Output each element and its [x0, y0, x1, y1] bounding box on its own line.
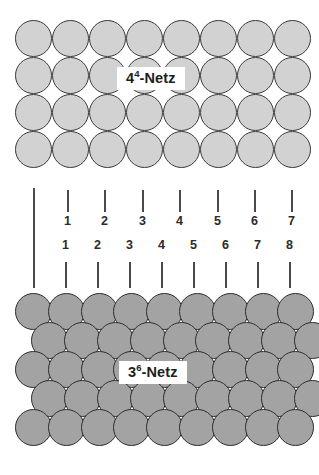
hex-lattice-sphere — [179, 409, 216, 446]
square-lattice-sphere — [126, 20, 163, 57]
square-lattice-sphere — [274, 131, 311, 168]
square-lattice-sphere — [237, 131, 274, 168]
ruler-bottom-number-5: 5 — [184, 238, 204, 252]
square-lattice-sphere — [89, 94, 126, 131]
label-hex-base: 3 — [128, 364, 136, 380]
square-lattice-sphere — [200, 94, 237, 131]
hex-lattice-sphere — [277, 409, 314, 446]
ruler-top-tick-7 — [291, 190, 293, 212]
label-hex-suffix: -Netz — [142, 364, 178, 380]
square-lattice-sphere — [15, 94, 52, 131]
square-lattice-sphere — [15, 131, 52, 168]
hex-lattice-sphere — [179, 293, 216, 330]
square-lattice-sphere — [274, 20, 311, 57]
ruler-top-number-4: 4 — [170, 214, 190, 228]
square-lattice-sphere — [163, 94, 200, 131]
ruler-bottom-tick-4 — [161, 262, 163, 288]
hex-lattice-sphere — [97, 322, 134, 359]
hex-lattice-sphere — [113, 409, 150, 446]
hex-lattice-sphere — [15, 409, 52, 446]
square-lattice-sphere — [237, 94, 274, 131]
hex-lattice-sphere — [130, 322, 167, 359]
square-lattice-sphere — [200, 131, 237, 168]
ruler-top-tick-1 — [67, 190, 69, 212]
ruler-bottom-tick-1 — [65, 262, 67, 288]
ruler-top-number-2: 2 — [95, 214, 115, 228]
ruler-top-tick-5 — [217, 190, 219, 212]
square-lattice-sphere — [126, 131, 163, 168]
ruler-bottom-tick-5 — [193, 262, 195, 288]
hex-lattice-sphere — [146, 409, 183, 446]
ruler-bottom-tick-6 — [225, 262, 227, 288]
hex-lattice-sphere — [15, 293, 52, 330]
hex-lattice-sphere — [294, 380, 319, 417]
square-lattice-sphere — [52, 57, 89, 94]
hex-lattice-sphere — [130, 380, 167, 417]
square-lattice-sphere — [274, 94, 311, 131]
lattice-comparison-figure: 1234567 12345678 44-Netz 36-Netz — [0, 0, 319, 475]
hex-lattice-sphere — [195, 322, 232, 359]
hex-lattice-sphere — [212, 351, 249, 388]
ruler-bottom-number-4: 4 — [152, 238, 172, 252]
ruler-bottom-number-8: 8 — [280, 238, 300, 252]
hex-lattice-sphere — [81, 293, 118, 330]
hex-lattice-sphere — [146, 293, 183, 330]
ruler-top-number-5: 5 — [208, 214, 228, 228]
hex-lattice-sphere — [195, 380, 232, 417]
hex-lattice-sphere — [245, 293, 282, 330]
ruler-bottom-number-3: 3 — [120, 238, 140, 252]
ruler-bottom-tick-3 — [129, 262, 131, 288]
hex-lattice-sphere — [64, 322, 101, 359]
label-square-base: 4 — [126, 70, 134, 86]
ruler-top-tick-3 — [142, 190, 144, 212]
hex-lattice-sphere — [228, 322, 265, 359]
square-lattice-sphere — [274, 57, 311, 94]
hex-lattice-sphere — [163, 380, 200, 417]
square-lattice-sphere — [89, 131, 126, 168]
ruler-top-number-3: 3 — [133, 214, 153, 228]
ruler-bottom-tick-8 — [289, 262, 291, 288]
hex-lattice-sphere — [163, 322, 200, 359]
ruler-bottom-number-7: 7 — [248, 238, 268, 252]
square-lattice-sphere — [126, 94, 163, 131]
hex-lattice-sphere — [277, 351, 314, 388]
hex-lattice-sphere — [212, 293, 249, 330]
ruler-bottom-tick-7 — [257, 262, 259, 288]
ruler-top-tick-2 — [104, 190, 106, 212]
square-lattice-sphere — [15, 57, 52, 94]
hex-lattice-sphere — [97, 380, 134, 417]
hex-lattice-sphere — [245, 409, 282, 446]
hex-lattice-sphere — [64, 380, 101, 417]
square-lattice-sphere — [200, 20, 237, 57]
hex-lattice-sphere — [113, 293, 150, 330]
ruler-bottom-number-1: 1 — [56, 238, 76, 252]
hex-lattice-sphere — [15, 351, 52, 388]
ruler-top-tick-6 — [254, 190, 256, 212]
square-lattice-sphere — [89, 20, 126, 57]
square-lattice-sphere — [52, 94, 89, 131]
square-lattice-sphere — [237, 57, 274, 94]
hex-lattice-sphere — [277, 293, 314, 330]
square-lattice-sphere — [163, 131, 200, 168]
hex-lattice-sphere — [81, 409, 118, 446]
square-lattice-sphere — [237, 20, 274, 57]
hex-lattice-sphere — [261, 380, 298, 417]
hex-lattice-sphere — [48, 409, 85, 446]
ruler-top-number-6: 6 — [245, 214, 265, 228]
label-square-suffix: -Netz — [140, 70, 176, 86]
hex-lattice-sphere — [31, 380, 68, 417]
hex-lattice-sphere — [48, 293, 85, 330]
ruler-top-number-7: 7 — [282, 214, 302, 228]
hex-lattice-sphere — [31, 322, 68, 359]
hex-lattice-sphere — [212, 409, 249, 446]
ruler-top-origin-line — [33, 188, 35, 288]
hex-lattice-sphere — [228, 380, 265, 417]
square-lattice-sphere — [200, 57, 237, 94]
square-lattice-sphere — [163, 20, 200, 57]
square-lattice-sphere — [52, 131, 89, 168]
label-square-lattice: 44-Netz — [117, 67, 185, 90]
ruler-bottom-number-2: 2 — [88, 238, 108, 252]
hex-lattice-sphere — [294, 322, 319, 359]
label-hex-lattice: 36-Netz — [119, 361, 187, 384]
hex-lattice-sphere — [81, 351, 118, 388]
